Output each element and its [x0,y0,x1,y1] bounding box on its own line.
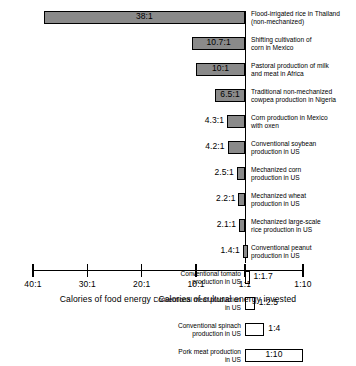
category-label: Flood-irrigated rice in Thailand (non-me… [251,10,355,25]
x-axis-line [33,270,304,271]
bar-row: 1:4Conventional spinach production in US [0,323,356,349]
bar-8 [238,193,245,206]
bar-row: 10:1Pastoral production of milk and meat… [0,63,356,89]
x-axis-tick [195,264,196,277]
x-axis-tick-label: 30:1 [79,279,96,289]
bar-6 [228,141,245,154]
bar-row: 6.5:1Traditional non-mechanized cowpea p… [0,89,356,115]
bar-value-label: 4.2:1 [155,140,225,153]
category-label: Conventional spinach production in US [101,322,241,337]
x-axis-tick [302,264,303,277]
category-label: Corn production in Mexico with oxen [251,114,355,129]
bar-10 [243,245,248,258]
bar-13 [245,323,264,336]
bar-value-label: 4.3:1 [154,114,224,127]
bar-row: 2.2:1Mechanized wheat production in US [0,193,356,219]
bar-row: 38:1Flood-irrigated rice in Thailand (no… [0,11,356,37]
bar-7 [237,167,245,180]
x-axis-caption: Calories of food energy : Calories of cu… [0,294,356,304]
bar-row: 2.5:1Mechanized corn production in US [0,167,356,193]
bar-row: 4.2:1Conventional soybean production in … [0,141,356,167]
category-label: Conventional soybean production in US [251,140,355,155]
bar-9 [239,219,245,232]
category-label: Shifting cultivation of corn in Mexico [251,36,355,51]
x-axis-tick [87,264,88,277]
bar-row: 4.3:1Corn production in Mexico with oxen [0,115,356,141]
x-axis-tick-label: 1:1 [239,279,251,289]
bar-value-label: 10.7:1 [192,36,245,49]
category-label: Traditional non-mechanized cowpea produc… [251,88,355,103]
x-axis-tick-label: 40:1 [24,279,41,289]
bar-value-label: 2.5:1 [164,166,234,179]
bar-value-label: 2.1:1 [166,218,236,231]
bar-value-label: 38:1 [44,10,245,23]
x-axis: 40:130:120:110:11:11:10 Calories of food… [0,264,356,312]
category-label: Mechanized wheat production in US [251,192,355,207]
bar-value-label: 1.4:1 [170,244,240,257]
bar-row: 10.7:1Shifting cultivation of corn in Me… [0,37,356,63]
bar-row: 1:10Pork meat production in US [0,349,356,366]
x-axis-tick-label: 10:1 [187,279,204,289]
x-axis-tick-label: 20:1 [133,279,150,289]
bar-row: 2.1:1Mechanized large-scale rice product… [0,219,356,245]
category-label: Mechanized large-scale rice production i… [251,218,355,233]
bar-value-label: 10:1 [196,62,245,75]
bar-value-label: 6.5:1 [215,88,245,101]
bar-value-label: 1:4 [268,322,328,335]
category-label: Conventional peanut production in US [251,244,355,259]
x-axis-tick [244,264,245,277]
bar-5 [227,115,245,128]
plot-area: 38:1Flood-irrigated rice in Thailand (no… [0,0,356,260]
bar-value-label: 1:10 [245,348,303,361]
x-axis-tick [32,264,33,277]
x-axis-tick-label: 1:10 [294,279,311,289]
x-axis-tick [141,264,142,277]
category-label: Mechanized corn production in US [251,166,355,181]
bar-value-label: 2.2:1 [165,192,235,205]
category-label: Pork meat production in US [101,348,241,363]
category-label: Pastoral production of milk and meat in … [251,62,355,77]
